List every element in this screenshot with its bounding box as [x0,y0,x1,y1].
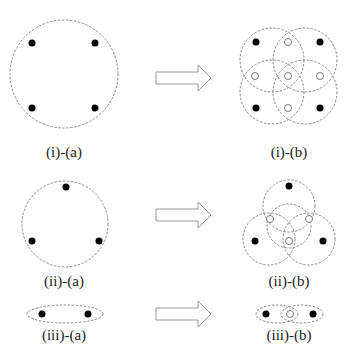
panel-iii-a [27,305,103,323]
open-dot [285,105,292,112]
label-ii-b: (ii)-(b) [269,273,310,290]
label-iii-b: (iii)-(b) [267,327,312,344]
filled-dot [253,105,260,112]
label-i-a: (i)-(a) [46,144,82,161]
panel-ii-b [243,180,335,265]
right-arrow-icon [156,301,211,327]
open-dot [267,216,274,223]
filled-dot [39,311,46,318]
dashed-circle [273,28,337,92]
open-dot [306,216,313,223]
panel-i-b [240,28,337,124]
open-dot [287,311,294,318]
filled-dot [92,40,99,47]
label-ii-a: (ii)-(a) [44,273,84,290]
panel-iii-b [256,305,323,323]
dashed-ellipse [27,305,103,323]
filled-dot [252,238,259,245]
label-i-b: (i)-(b) [271,144,308,161]
filled-dot [96,238,103,245]
filled-dot [317,39,324,46]
diagram-canvas: .d{fill:none;stroke:#8a8a8a;stroke-width… [0,0,346,353]
right-arrow-icon [156,65,211,91]
open-dot [285,39,292,46]
right-arrow-icon [156,202,211,228]
panel-ii-a [22,181,108,267]
dashed-circle [22,181,108,267]
filled-dot [92,105,99,112]
open-dot [286,238,293,245]
label-iii-a: (iii)-(a) [42,327,86,344]
dashed-circle [10,20,118,128]
filled-dot [29,238,36,245]
filled-dot [253,39,260,46]
filled-dot [29,105,36,112]
panel-i-a [10,20,118,128]
open-dot [317,73,324,80]
filled-dot [320,238,327,245]
open-dot [285,73,292,80]
filled-dot [317,105,324,112]
filled-dot [263,311,270,318]
filled-dot [29,40,36,47]
filled-dot [63,184,70,191]
dashed-circle [240,28,304,92]
open-dot [252,73,259,80]
filled-dot [85,311,92,318]
filled-dot [310,311,317,318]
filled-dot [286,183,293,190]
